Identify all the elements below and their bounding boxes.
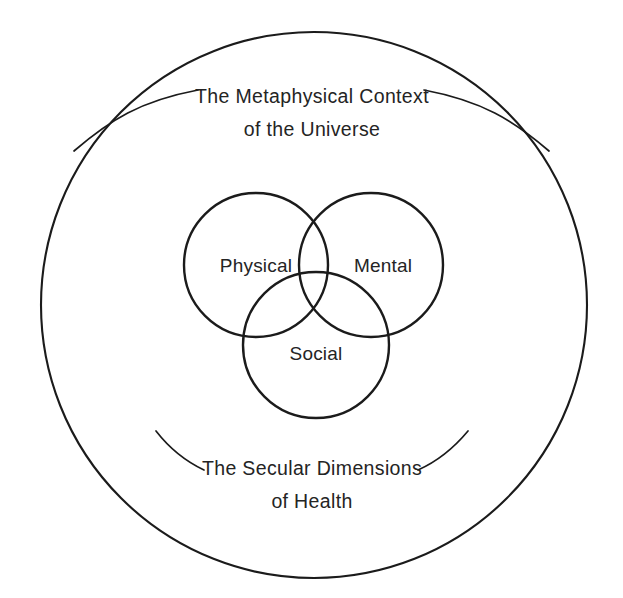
metaphysical-band-line1: The Metaphysical Context bbox=[195, 85, 429, 107]
secular-band-line1: The Secular Dimensions bbox=[202, 457, 422, 479]
diagram-canvas: The Metaphysical Context of the Universe… bbox=[0, 0, 623, 598]
secular-band-line2: of Health bbox=[271, 490, 352, 512]
metaphysical-band-line2: of the Universe bbox=[244, 118, 380, 140]
venn-label-physical: Physical bbox=[220, 255, 292, 276]
arc-bottom-left-icon bbox=[156, 431, 204, 470]
diagram-svg: The Metaphysical Context of the Universe… bbox=[0, 0, 623, 598]
venn-label-social: Social bbox=[290, 343, 343, 364]
venn-label-mental: Mental bbox=[354, 255, 412, 276]
arc-bottom-right-icon bbox=[418, 431, 468, 470]
arc-top-right-icon bbox=[424, 90, 549, 151]
